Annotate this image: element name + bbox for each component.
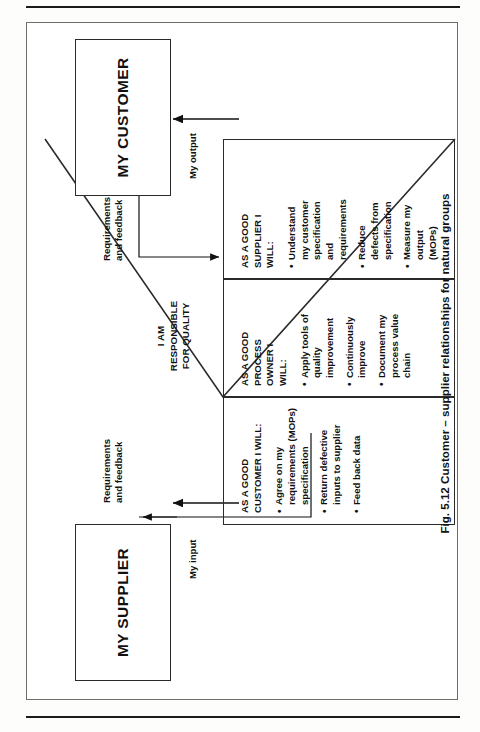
- figure-caption: Fig. 5.12 Customer – supplier relationsh…: [438, 64, 451, 664]
- heading-good-supplier: AS A GOOD SUPPLIER I WILL:: [239, 150, 277, 268]
- page-rule-top: [26, 6, 460, 8]
- list-item: Reduce defects from specification: [356, 150, 394, 268]
- text-block-good-customer: AS A GOOD CUSTOMER I WILL: Agree on my r…: [239, 401, 370, 513]
- flow-label-requirements-feedback-customer: Requirements and feedback: [101, 197, 126, 261]
- flow-label-my-input: My input: [187, 540, 199, 579]
- list-item: Measure my output (MOPs): [401, 150, 439, 268]
- list-item: Return defective inputs to supplier: [318, 401, 343, 513]
- center-label-responsible-for-quality: I AM RESPONSIBLE FOR QUALITY: [155, 275, 193, 397]
- bullet-list-good-supplier: Understand my customer specification and…: [286, 150, 439, 268]
- figure-frame: MY SUPPLIER MY CUSTOMER I AM RESPONSIBLE…: [26, 22, 458, 700]
- list-item: Continuously improve: [344, 286, 369, 386]
- list-item: Feed back data: [351, 401, 364, 513]
- entity-box-my-customer: MY CUSTOMER: [75, 39, 171, 196]
- list-item: Apply tools of quality improvement: [299, 286, 337, 386]
- flow-label-requirements-feedback-supplier: Requirements and feedback: [101, 439, 126, 503]
- text-block-good-process-owner: AS A GOOD PROCESS OWNER I WILL: Apply to…: [239, 286, 421, 386]
- entity-label-my-customer: MY CUSTOMER: [114, 57, 132, 177]
- bullet-list-good-process-owner: Apply tools of quality improvement Conti…: [299, 286, 414, 386]
- list-item: Document my process value chain: [376, 286, 414, 386]
- list-item: Agree on my requirements (MOPs) specific…: [273, 401, 311, 513]
- scanned-page: MY SUPPLIER MY CUSTOMER I AM RESPONSIBLE…: [0, 0, 480, 732]
- entity-label-my-supplier: MY SUPPLIER: [114, 548, 132, 657]
- entity-box-my-supplier: MY SUPPLIER: [75, 524, 171, 681]
- text-block-good-supplier: AS A GOOD SUPPLIER I WILL: Understand my…: [239, 150, 446, 268]
- rotated-figure-canvas: MY SUPPLIER MY CUSTOMER I AM RESPONSIBLE…: [27, 23, 457, 699]
- heading-good-process-owner: AS A GOOD PROCESS OWNER I WILL:: [239, 286, 290, 386]
- list-item: Understand my customer specification and…: [286, 150, 349, 268]
- flow-label-my-output: My output: [187, 133, 199, 179]
- bullet-list-good-customer: Agree on my requirements (MOPs) specific…: [273, 401, 363, 513]
- page-rule-bottom: [26, 716, 460, 718]
- heading-good-customer: AS A GOOD CUSTOMER I WILL:: [239, 401, 264, 513]
- arrow-requirements-from-customer: [139, 196, 219, 257]
